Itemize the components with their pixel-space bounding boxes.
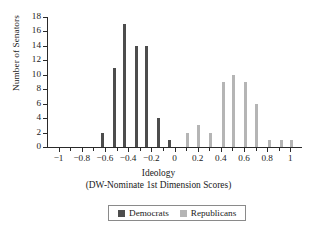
x-tick-label: 0.4	[215, 154, 226, 163]
y-tick-label: 6	[19, 99, 41, 108]
bar	[145, 46, 148, 147]
y-tick	[43, 31, 47, 32]
x-tick-label: 0.8	[261, 154, 272, 163]
bar	[168, 140, 171, 147]
x-axis-title: Ideology	[0, 168, 317, 178]
y-tick-label: 2	[19, 128, 41, 137]
x-tick-label: 0	[172, 154, 177, 163]
bar	[101, 133, 104, 147]
y-tick-label: 4	[19, 114, 41, 123]
bar	[280, 140, 283, 147]
x-tick-label: −1	[54, 154, 64, 163]
legend-swatch-icon	[118, 210, 125, 217]
x-tick-label: −0.8	[73, 154, 90, 163]
y-tick	[43, 89, 47, 90]
y-tick-label: 10	[19, 70, 41, 79]
y-tick-label: 18	[19, 12, 41, 21]
x-tick	[221, 148, 222, 152]
y-tick	[43, 75, 47, 76]
x-tick	[267, 148, 268, 152]
legend-item[interactable]: Democrats	[118, 209, 169, 218]
y-tick-label: 0	[19, 142, 41, 151]
legend-swatch-icon	[180, 210, 187, 217]
bar	[135, 46, 138, 147]
x-tick	[128, 148, 129, 152]
y-tick	[43, 17, 47, 18]
y-tick	[43, 133, 47, 134]
x-tick-label: 1	[288, 154, 293, 163]
x-axis-subtitle: (DW-Nominate 1st Dimension Scores)	[0, 180, 317, 190]
y-tick-label: 8	[19, 85, 41, 94]
bar	[268, 140, 271, 147]
legend-label: Democrats	[129, 209, 169, 218]
bar	[222, 82, 225, 147]
legend-item[interactable]: Republicans	[180, 209, 236, 218]
y-axis-line	[47, 17, 48, 148]
bar	[157, 118, 160, 147]
x-tick	[105, 148, 106, 152]
x-tick	[290, 148, 291, 152]
bar	[197, 125, 200, 147]
bar	[232, 75, 235, 147]
bar	[186, 133, 189, 147]
x-minor-tick	[163, 148, 164, 151]
x-tick-label: −0.6	[97, 154, 114, 163]
y-tick	[43, 118, 47, 119]
x-tick-label: −0.4	[120, 154, 137, 163]
plot-area: 024681012141618 −1−0.8−0.6−0.4−0.200.20.…	[47, 17, 302, 148]
x-tick-label: 0.2	[192, 154, 203, 163]
x-tick	[175, 148, 176, 152]
x-minor-tick	[70, 148, 71, 151]
x-minor-tick	[186, 148, 187, 151]
bar	[123, 24, 126, 147]
y-tick	[43, 60, 47, 61]
bar	[290, 140, 293, 147]
y-tick	[43, 147, 47, 148]
x-tick-label: −0.2	[143, 154, 160, 163]
x-minor-tick	[209, 148, 210, 151]
x-tick	[151, 148, 152, 152]
y-tick-label: 16	[19, 27, 41, 36]
x-minor-tick	[93, 148, 94, 151]
bar	[113, 68, 116, 147]
y-tick-label: 14	[19, 41, 41, 50]
x-minor-tick	[256, 148, 257, 151]
x-minor-tick	[117, 148, 118, 151]
y-tick	[43, 104, 47, 105]
x-tick	[198, 148, 199, 152]
x-tick	[59, 148, 60, 152]
x-minor-tick	[279, 148, 280, 151]
bar	[209, 133, 212, 147]
x-minor-tick	[232, 148, 233, 151]
x-tick-label: 0.6	[238, 154, 249, 163]
bar	[255, 104, 258, 147]
x-minor-tick	[140, 148, 141, 151]
x-tick	[82, 148, 83, 152]
chart-figure: Number of Senators 024681012141618 −1−0.…	[0, 0, 317, 233]
bar	[244, 82, 247, 147]
y-tick	[43, 46, 47, 47]
legend-label: Republicans	[191, 209, 236, 218]
x-tick	[244, 148, 245, 152]
y-tick-label: 12	[19, 56, 41, 65]
chart-legend: DemocratsRepublicans	[108, 205, 246, 221]
